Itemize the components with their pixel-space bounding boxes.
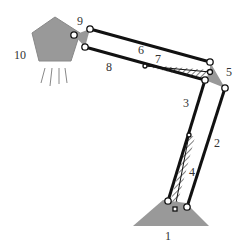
joint-9-top — [87, 26, 93, 32]
label-4: 4 — [189, 166, 195, 178]
joint-5-mid — [208, 70, 213, 75]
joint-head — [71, 32, 77, 38]
joint-base-left — [165, 198, 171, 204]
joint-4-end — [187, 133, 191, 137]
label-1: 1 — [165, 230, 171, 242]
label-3: 3 — [183, 97, 189, 109]
label-9: 9 — [77, 15, 83, 27]
joint-base-right — [184, 204, 190, 210]
label-7: 7 — [155, 53, 161, 65]
link-5-body — [205, 62, 225, 88]
joint-5-left — [202, 77, 208, 83]
lamp-mechanism-diagram — [0, 0, 243, 250]
joint-5-top — [207, 59, 213, 65]
lamp-head-body — [32, 17, 80, 61]
joint-5-right — [222, 85, 228, 91]
label-6: 6 — [138, 44, 144, 56]
label-8: 8 — [106, 61, 112, 73]
base-body — [133, 200, 209, 226]
link-6 — [90, 29, 210, 62]
joint-7-end — [143, 64, 147, 68]
joints — [71, 26, 228, 211]
joint-base-slider — [173, 207, 177, 211]
joint-9-bottom — [82, 44, 88, 50]
light-rays-icon — [41, 68, 67, 86]
label-2: 2 — [214, 137, 220, 149]
label-5: 5 — [226, 66, 232, 78]
label-10: 10 — [14, 49, 26, 61]
